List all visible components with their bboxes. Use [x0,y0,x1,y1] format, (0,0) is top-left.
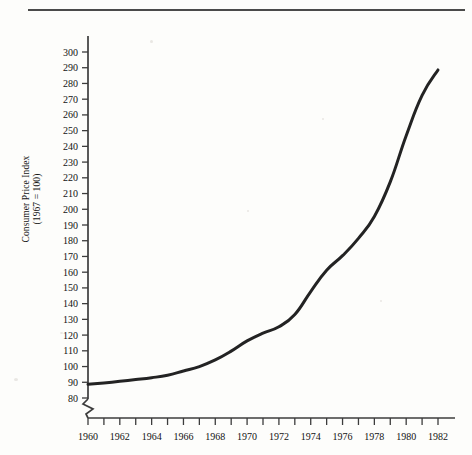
y-tick-label: 90 [68,377,78,388]
scan-speck [380,300,382,302]
y-tick-label: 250 [63,125,78,136]
y-tick-label: 150 [63,282,78,293]
x-tick-label: 1976 [333,431,353,442]
x-tick-label: 1978 [364,431,384,442]
y-tick-label: 260 [63,109,78,120]
scan-speck [322,118,324,120]
y-tick-label: 300 [63,47,78,58]
x-tick-label: 1970 [237,431,257,442]
y-tick-label: 220 [63,172,78,183]
y-tick-label: 280 [63,78,78,89]
y-tick-label: 100 [63,361,78,372]
x-tick-label: 1962 [110,431,130,442]
y-tick-label: 190 [63,220,78,231]
x-axis: 1960196219641966196819701972197419761978… [78,418,455,442]
y-tick-label: 160 [63,267,78,278]
y-tick-label: 140 [63,298,78,309]
y-tick-label: 210 [63,188,78,199]
y-tick-label: 170 [63,251,78,262]
x-tick-label: 1966 [173,431,193,442]
cpi-series-line [88,70,438,384]
y-tick-label: 270 [63,94,78,105]
x-tick-group: 1960196219641966196819701972197419761978… [78,418,448,442]
cpi-line-chart-figure: Consumer Price Index (1967 = 100) 809010… [0,0,472,455]
x-tick-label: 1974 [301,431,321,442]
y-tick-label: 80 [68,393,78,404]
y-tick-label: 180 [63,235,78,246]
y-tick-label: 130 [63,314,78,325]
chart-canvas: 8090100110120130140150160170180190200210… [0,0,472,455]
y-axis-break-zigzag-icon [83,399,93,418]
x-tick-label: 1980 [396,431,416,442]
x-tick-label: 1982 [428,431,448,442]
x-tick-label: 1968 [205,431,225,442]
x-tick-label: 1964 [142,431,162,442]
y-tick-label: 200 [63,204,78,215]
y-tick-label: 240 [63,141,78,152]
y-axis: 8090100110120130140150160170180190200210… [63,36,93,418]
scan-speck [247,210,249,212]
scan-speck [60,332,63,334]
y-tick-label: 290 [63,62,78,73]
y-tick-group: 8090100110120130140150160170180190200210… [63,47,88,404]
scan-speck [150,40,153,43]
x-tick-label: 1972 [269,431,289,442]
scan-speck [14,378,18,381]
y-tick-label: 230 [63,157,78,168]
y-tick-label: 110 [63,345,78,356]
x-tick-label: 1960 [78,431,98,442]
y-tick-label: 120 [63,330,78,341]
